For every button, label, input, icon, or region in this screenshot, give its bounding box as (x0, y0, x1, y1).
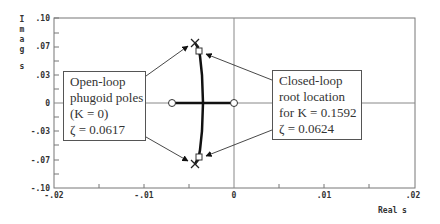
pole-x-marker (191, 160, 199, 168)
zero-marker (231, 100, 238, 107)
x-axis-label: Real s (378, 206, 407, 215)
x-tick-label: 0 (232, 191, 237, 200)
annotation-open-loop: Open-loop phugoid poles (K = 0) ζ = 0.06… (63, 71, 146, 141)
annotation-closed-loop: Closed-loop root location for K = 0.1592… (272, 70, 362, 140)
y-tick-label: 0 (45, 99, 50, 108)
annotation-line: (K = 0) (70, 106, 139, 122)
x-tick-label: .02 (406, 191, 421, 200)
annotation-line: for K = 0.1592 (279, 105, 355, 121)
zero-marker (169, 100, 176, 107)
annotation-line: Open-loop (70, 74, 139, 90)
arrow-right-bottom (206, 130, 272, 156)
ylabel-char: m (20, 25, 25, 34)
closed-loop-root-marker (196, 154, 202, 160)
y-tick-label: -.03 (31, 127, 50, 136)
ylabel-char: I (20, 15, 25, 24)
y-tick-label: .10 (36, 14, 51, 23)
x-tick-label: -.02 (44, 191, 63, 200)
closed-loop-root-marker (196, 48, 202, 54)
x-tick-label: -.01 (134, 191, 153, 200)
x-tick-label: .01 (317, 191, 332, 200)
y-tick-label: -.07 (31, 156, 50, 165)
annotation-line: ζ = 0.0617 (70, 122, 139, 138)
annotation-line: Closed-loop (279, 73, 355, 89)
ylabel-char: g (20, 45, 25, 54)
y-tick-label: .03 (36, 71, 51, 80)
ylabel-char: a (20, 35, 25, 44)
y-tick-label: .07 (36, 42, 51, 51)
annotation-line: root location (279, 89, 355, 105)
ylabel-char: s (20, 62, 25, 71)
arrow-left-top (146, 46, 188, 76)
annotation-line: phugoid poles (70, 90, 139, 106)
annotation-line: ζ = 0.0624 (279, 121, 355, 137)
arrow-left-bottom (146, 137, 188, 161)
pole-x-marker (191, 39, 199, 47)
arrow-right-top (206, 54, 272, 80)
